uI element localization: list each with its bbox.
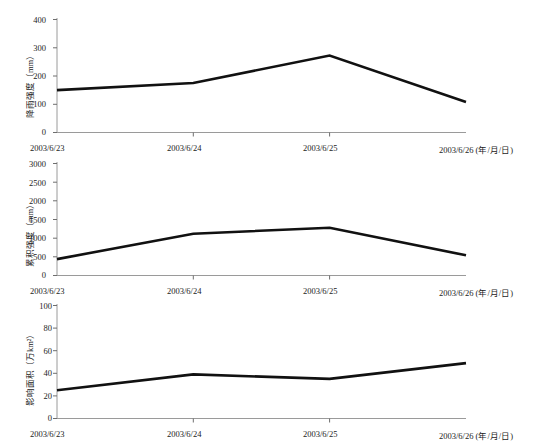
x-tick-label: 2003/6/23 [30,143,64,153]
chart-svg-3 [0,296,550,442]
x-tick-label: 2003/6/23 [30,286,64,296]
x-tick-label: 2003/6/26 (年/月/日) [439,143,513,155]
chart-svg-1 [0,10,550,160]
plot-area-1: 降雨强度（mm） 400 300 200 100 0 2003/6/23 [0,10,550,160]
chart-panel-cumulative-intensity: 累积强度（mm） 3000 2500 2000 1500 1000 500 0 [0,155,550,303]
x-tick-label: 2003/6/23 [30,429,64,439]
x-tick-label: 2003/6/24 [167,286,201,296]
faded-header-text [345,1,545,10]
data-series-line-3 [57,363,466,390]
plot-area-3: 影响面积（万km²） 100 80 60 40 20 0 2003/6/23 2… [0,296,550,442]
chart-svg-2 [0,155,550,303]
x-tick-label: 2003/6/25 [303,429,337,439]
chart-panel-affected-area: 影响面积（万km²） 100 80 60 40 20 0 2003/6/23 2… [0,296,550,442]
data-series-line-2 [57,228,466,259]
data-series-line-1 [57,56,466,102]
x-tick-label: 2003/6/24 [167,429,201,439]
x-tick-label: 2003/6/24 [167,143,201,153]
chart-panel-rainfall-intensity: 降雨强度（mm） 400 300 200 100 0 2003/6/23 [0,10,550,160]
x-tick-label: 2003/6/25 [303,286,337,296]
x-tick-label: 2003/6/26 (年/月/日) [439,429,513,441]
x-tick-label: 2003/6/25 [303,143,337,153]
plot-area-2: 累积强度（mm） 3000 2500 2000 1500 1000 500 0 [0,155,550,303]
